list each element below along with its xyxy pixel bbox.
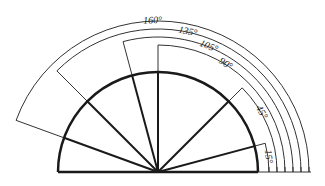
extension-line xyxy=(123,42,132,76)
angle-label: 105° xyxy=(198,37,220,54)
angle-label: 160° xyxy=(143,14,162,26)
radial-line xyxy=(64,138,158,172)
angle-label: 15° xyxy=(263,149,276,164)
radial-line xyxy=(87,101,158,172)
extension-line xyxy=(229,88,242,101)
radial-line xyxy=(132,75,158,172)
extension-line xyxy=(57,71,87,101)
radial-line xyxy=(158,101,229,172)
extension-line xyxy=(16,120,64,137)
extension-line xyxy=(255,143,266,146)
radial-line xyxy=(158,146,255,172)
protractor-diagram: 15°45°90°105°135°160° xyxy=(0,0,325,186)
